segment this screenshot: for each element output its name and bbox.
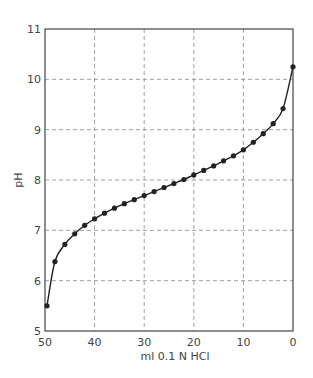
x-tick-label: 20: [187, 336, 201, 349]
data-point-markers: [44, 64, 295, 308]
x-tick-label: 30: [137, 336, 151, 349]
y-tick-label: 11: [27, 23, 41, 36]
grid-lines: [45, 29, 293, 331]
y-tick-label: 5: [34, 325, 41, 338]
y-tick-label: 6: [34, 275, 41, 288]
data-point: [290, 64, 295, 69]
y-axis-label: pH: [12, 172, 25, 187]
data-point: [201, 168, 206, 173]
data-point: [52, 259, 57, 264]
data-point: [261, 131, 266, 136]
data-point: [92, 216, 97, 221]
x-axis-label: ml 0.1 N HCl: [141, 350, 210, 363]
x-tick-label: 40: [88, 336, 102, 349]
y-axis-ticks: 567891011: [27, 23, 41, 338]
titration-chart: 50403020100 567891011 ml 0.1 N HCl pH: [0, 0, 313, 378]
data-point: [181, 177, 186, 182]
data-point: [152, 189, 157, 194]
data-point: [72, 231, 77, 236]
y-tick-label: 8: [34, 174, 41, 187]
x-axis-ticks: 50403020100: [38, 336, 297, 349]
x-tick-label: 0: [290, 336, 297, 349]
titration-curve-line: [47, 67, 293, 306]
data-point: [271, 121, 276, 126]
data-point: [241, 147, 246, 152]
data-point: [231, 153, 236, 158]
x-tick-label: 10: [236, 336, 250, 349]
data-point: [112, 206, 117, 211]
data-point: [251, 140, 256, 145]
data-point: [211, 163, 216, 168]
data-point: [280, 106, 285, 111]
data-point: [142, 193, 147, 198]
data-point: [132, 197, 137, 202]
data-point: [122, 201, 127, 206]
y-tick-label: 10: [27, 73, 41, 86]
data-point: [82, 223, 87, 228]
data-point: [221, 158, 226, 163]
data-point: [62, 242, 67, 247]
y-tick-label: 9: [34, 124, 41, 137]
data-point: [191, 172, 196, 177]
y-tick-label: 7: [34, 224, 41, 237]
data-point: [171, 181, 176, 186]
data-point: [44, 303, 49, 308]
data-point: [102, 211, 107, 216]
data-point: [161, 185, 166, 190]
